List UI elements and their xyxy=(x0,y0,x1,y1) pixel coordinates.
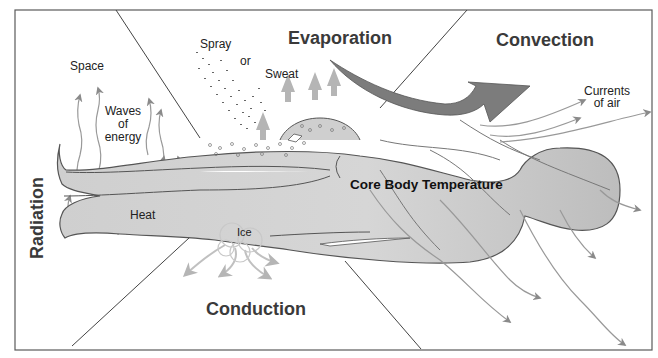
label-heat: Heat xyxy=(130,208,156,222)
label-or: or xyxy=(240,54,251,68)
label-ice: Ice xyxy=(237,226,252,238)
label-space: Space xyxy=(70,59,104,73)
label-currents-line2: of air xyxy=(594,96,621,110)
section-title-evaporation: Evaporation xyxy=(288,28,392,48)
section-title-conduction: Conduction xyxy=(206,299,306,319)
label-waves-line2: of xyxy=(118,117,129,131)
label-waves-line3: energy xyxy=(105,130,142,144)
section-title-radiation: Radiation xyxy=(27,177,47,259)
label-spray: Spray xyxy=(200,37,231,51)
label-core-body-temperature: Core Body Temperature xyxy=(350,177,503,192)
label-sweat: Sweat xyxy=(265,67,299,81)
label-waves-line1: Waves xyxy=(105,104,141,118)
heat-loss-diagram: Radiation Evaporation Convection Conduct… xyxy=(0,0,658,358)
section-title-convection: Convection xyxy=(496,30,594,50)
